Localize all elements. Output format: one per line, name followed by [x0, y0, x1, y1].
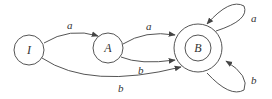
state-A: A [93, 33, 123, 63]
edge-B-B-a [207, 4, 245, 31]
edge-label-A-B-a: a [146, 20, 152, 32]
edge-label-B-B-b: b [251, 74, 257, 86]
edge-A-B-a [123, 34, 175, 44]
edge-A-B-b [121, 57, 175, 62]
edge-I-A-a [44, 33, 98, 43]
state-I: I [14, 35, 44, 65]
edge-label-A-B-b: b [138, 64, 144, 76]
automaton-diagram: a b a b a b I A B [0, 0, 272, 99]
edge-label-I-A: a [67, 19, 73, 31]
state-label-B: B [194, 41, 202, 55]
state-B-accepting: B [174, 24, 222, 72]
state-label-A: A [103, 41, 112, 55]
edge-label-I-B: b [118, 82, 124, 94]
edge-label-B-B-a: a [251, 12, 257, 24]
